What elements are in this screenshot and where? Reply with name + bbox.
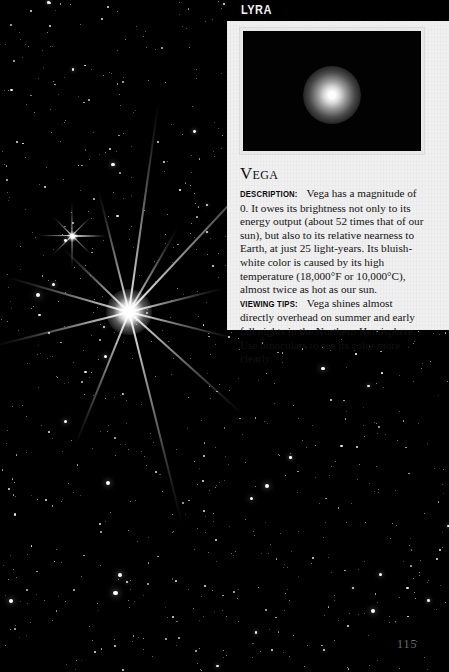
star-point [195,650,197,652]
star-point [351,503,352,504]
star-point [128,530,129,531]
star-point [188,397,189,398]
star-point [334,640,335,641]
star-point [137,541,138,542]
star-point [265,484,269,488]
star-point [126,581,128,583]
star-point [424,657,425,658]
star-point [176,621,177,622]
star-point [172,616,174,618]
star-point [194,237,195,238]
star-point [307,645,308,646]
star-point [218,277,219,278]
star-point [291,551,292,552]
star-point [420,560,421,561]
star-point [38,387,39,388]
star-point [233,591,235,593]
star-point [312,425,313,426]
star-point [364,613,365,614]
star-point [222,610,223,611]
star-point [403,420,404,421]
star-point [343,400,344,401]
star-point [185,182,186,183]
star-point [189,47,190,48]
star-point [338,507,340,509]
star-point [235,551,236,552]
star-point [139,275,140,276]
star-point [89,159,90,160]
star-point [208,552,209,553]
star-point [70,4,71,5]
star-point [447,381,448,382]
star-point [215,344,216,345]
star-point [128,600,129,601]
star-point [312,557,314,559]
star-point [216,561,217,562]
star-point [284,564,285,565]
star-point [245,519,246,520]
star-point [255,631,257,633]
star-point [311,563,312,564]
star-point [50,109,51,110]
star-point [109,148,111,150]
star-point [114,397,115,398]
star-point [187,428,188,429]
star-point [254,535,255,536]
star-point [428,580,429,581]
star-point [91,252,93,254]
star-point [41,425,42,426]
star-point [381,372,383,374]
star-point [177,244,179,246]
star-point [271,649,273,651]
star-point [81,660,82,661]
star-point [15,496,16,497]
star-point [389,616,390,617]
star-point [74,267,75,268]
star-point [10,89,12,91]
star-point [403,561,404,562]
star-point [371,609,375,613]
star-point [128,449,129,450]
star-point [122,81,124,83]
star-point [26,452,27,453]
star-point [8,287,9,288]
star-point [253,531,254,532]
star-point [304,666,305,667]
star-point [399,597,400,598]
star-point [216,485,217,486]
star-point [103,326,105,328]
star-point [162,330,163,331]
star-point [204,585,206,587]
star-point [427,599,430,602]
star-point [438,501,439,502]
star-point [442,532,443,533]
star-point [53,81,54,82]
star-point [359,464,360,465]
star-point [133,247,134,248]
star-point [352,587,355,590]
star-name-heading: Vega [240,165,426,182]
star-point [344,570,346,572]
star-point [116,215,118,217]
star-point [315,445,316,446]
star-point [91,372,92,373]
star-point [231,332,232,333]
star-point [94,299,95,300]
star-point [12,406,13,407]
star-point [182,26,183,27]
star-point [16,577,17,578]
star-point [203,455,205,457]
star-point [45,499,47,501]
star-point [122,669,124,671]
star-point [7,321,8,322]
star-point [92,448,93,449]
star-point [85,149,86,150]
star-point [204,442,206,444]
star-point [369,483,370,484]
star-point [203,510,205,512]
star-point [72,68,75,71]
star-point [219,482,220,483]
star-point [6,165,7,166]
star-point [172,579,173,580]
star-point [212,19,213,20]
